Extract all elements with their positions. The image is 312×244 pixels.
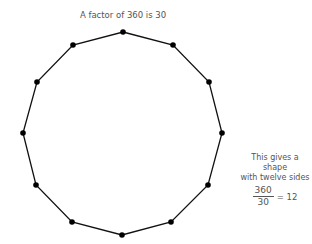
numerator: 360 [253,185,274,197]
denominator: 30 [257,197,268,208]
vertex-dot [120,29,126,35]
vertex-dot [205,182,211,188]
note-line-2: with twelve sides [238,173,312,183]
vertex-dot [119,232,125,238]
explanation-note: This gives a shape with twelve sides 360… [238,153,312,208]
equation: 360 30 = 12 [238,185,312,208]
vertex-dot [219,130,225,136]
fraction: 360 30 [253,185,274,208]
dodecagon-outline [23,32,222,235]
vertex-dot [70,42,76,48]
vertex-dot [168,219,174,225]
vertex-dot [69,219,75,225]
vertex-dot [20,130,26,136]
equation-result: = 12 [277,192,298,202]
note-line-1: This gives a shape [238,153,312,173]
vertex-points [20,29,225,238]
vertex-dot [33,182,39,188]
vertex-dot [34,79,40,85]
vertex-dot [170,42,176,48]
vertex-dot [206,79,212,85]
